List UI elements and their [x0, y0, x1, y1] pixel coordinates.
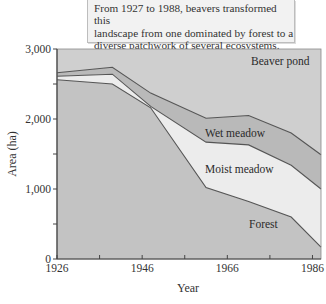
- x-tick-label: 1966: [216, 262, 239, 274]
- x-axis-title: Year: [177, 281, 199, 295]
- y-tick-label: 1,000: [25, 183, 51, 196]
- label-beaver-pond: Beaver pond: [251, 55, 310, 68]
- y-axis-title: Area (ha): [5, 131, 19, 177]
- y-tick-label: 2,000: [25, 113, 51, 126]
- plot-areas: [57, 49, 321, 259]
- y-tick-label: 3,000: [25, 43, 51, 56]
- label-moist-meadow: Moist meadow: [205, 163, 274, 175]
- stacked-area-chart: 01,0002,0003,0001926194619661986 Beaver …: [0, 0, 326, 304]
- label-forest: Forest: [249, 218, 279, 230]
- label-wet-meadow: Wet meadow: [205, 127, 266, 139]
- x-tick-label: 1946: [131, 262, 154, 274]
- x-tick-label: 1986: [301, 262, 324, 274]
- x-tick-label: 1926: [46, 262, 69, 274]
